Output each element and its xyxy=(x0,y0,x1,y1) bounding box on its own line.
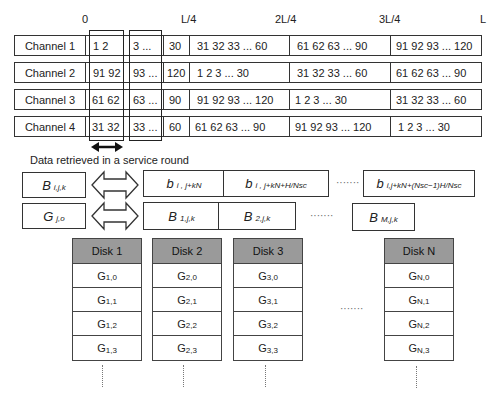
disk-block: G3,3 xyxy=(234,336,302,360)
block-g-jo: Gj,o xyxy=(22,203,86,229)
disk-block: G3,1 xyxy=(234,288,302,312)
channel-cell: 120 xyxy=(167,63,185,82)
block-b-mjk: BM,j,k xyxy=(352,203,415,231)
disk-1: Disk 1 G1,0 G1,1 G1,2 G1,3 xyxy=(72,238,142,361)
block-b-ijk: Bi,j,k xyxy=(22,172,86,198)
ellipsis: ······· xyxy=(310,210,333,221)
channel-cell: 61 62 63 ... 90 xyxy=(396,63,466,82)
bidirectional-arrow-icon xyxy=(90,170,140,200)
subblock-b-first: bi , j+kN xyxy=(143,170,225,197)
disk-block: GN,3 xyxy=(385,336,453,360)
channel-label: Channel 4 xyxy=(15,117,85,136)
subblock-b-last: bi,j+kN+(Nsc−1)H/Nsc xyxy=(363,170,475,197)
channel-label: Channel 3 xyxy=(15,90,85,109)
channel-row: Channel 1 1 2 3 ... 30 31 32 33 ... 60 6… xyxy=(14,35,482,56)
axis-tick-0: 0 xyxy=(82,13,88,25)
axis-tick-l4: L/4 xyxy=(181,13,196,25)
channel-cell: 30 xyxy=(169,36,181,55)
disk-header: Disk 3 xyxy=(234,239,302,264)
next-round-window xyxy=(129,30,162,141)
block-b-2jk: B2,j,k xyxy=(218,202,296,230)
channel-cell: 1 2 3 ... 30 xyxy=(197,63,249,82)
channel-cell: 1 2 3 ... 30 xyxy=(295,90,347,109)
channel-cell: 31 32 33 ... 60 xyxy=(197,36,267,55)
channel-cell: 91 92 93 ... 120 xyxy=(396,36,472,55)
channel-cell: 90 xyxy=(169,90,181,109)
disk-2: Disk 2 G2,0 G2,1 G2,2 G2,3 xyxy=(152,238,222,361)
disk-block: G2,0 xyxy=(153,264,221,288)
channel-cell: 91 92 93 ... 120 xyxy=(197,90,273,109)
channel-label: Channel 1 xyxy=(15,36,85,55)
service-round-window xyxy=(89,30,124,141)
disk-header: Disk 2 xyxy=(153,239,221,264)
channel-cell: 61 62 63 ... 90 xyxy=(195,117,265,136)
channel-cell: 60 xyxy=(169,117,181,136)
disk-block: G1,2 xyxy=(73,312,141,336)
disk-block: GN,0 xyxy=(385,264,453,288)
disk-3: Disk 3 G3,0 G3,1 G3,2 G3,3 xyxy=(233,238,303,361)
disk-block: G3,2 xyxy=(234,312,302,336)
disk-header: Disk 1 xyxy=(73,239,141,264)
vertical-ellipsis xyxy=(102,365,103,387)
disk-block: G2,3 xyxy=(153,336,221,360)
ellipsis: ······· xyxy=(336,177,359,188)
service-round-label: Data retrieved in a service round xyxy=(30,154,189,166)
axis-tick-3l4: 3L/4 xyxy=(379,13,400,25)
axis-tick-l: L xyxy=(480,13,486,25)
vertical-ellipsis xyxy=(416,366,417,388)
channel-cell: 31 32 33 ... 60 xyxy=(297,63,367,82)
subblock-b-second: bi , j+kN+H/Nsc xyxy=(223,170,329,197)
disk-block: G2,2 xyxy=(153,312,221,336)
disk-ellipsis: ······· xyxy=(340,303,363,314)
channel-row: Channel 3 61 62 63 ... 90 91 92 93 ... 1… xyxy=(14,89,482,110)
bidirectional-arrow-icon xyxy=(90,201,140,231)
disk-block: GN,2 xyxy=(385,312,453,336)
disk-block: G1,0 xyxy=(73,264,141,288)
channel-cell: 91 92 93 ... 120 xyxy=(295,117,371,136)
disk-block: G1,1 xyxy=(73,288,141,312)
vertical-ellipsis xyxy=(265,365,266,387)
channel-cell: 61 62 63 ... 90 xyxy=(297,36,367,55)
disk-block: GN,1 xyxy=(385,288,453,312)
channel-label: Channel 2 xyxy=(15,63,85,82)
channel-cell: 31 32 33 ... 60 xyxy=(396,90,466,109)
vertical-ellipsis xyxy=(183,365,184,387)
disk-block: G3,0 xyxy=(234,264,302,288)
disk-block: G1,3 xyxy=(73,336,141,360)
disk-n: Disk N GN,0 GN,1 GN,2 GN,3 xyxy=(384,238,454,361)
disk-block: G2,1 xyxy=(153,288,221,312)
axis-tick-2l4: 2L/4 xyxy=(275,13,296,25)
channel-cell: 1 2 3 ... 30 xyxy=(398,117,450,136)
channel-row: Channel 4 31 32 33 ... 60 61 62 63 ... 9… xyxy=(14,116,482,137)
channel-row: Channel 2 91 92 93 ... 120 1 2 3 ... 30 … xyxy=(14,62,482,83)
double-arrow-icon xyxy=(91,141,123,153)
disk-header: Disk N xyxy=(385,239,453,264)
block-b-1jk: B1,j,k xyxy=(143,202,220,230)
